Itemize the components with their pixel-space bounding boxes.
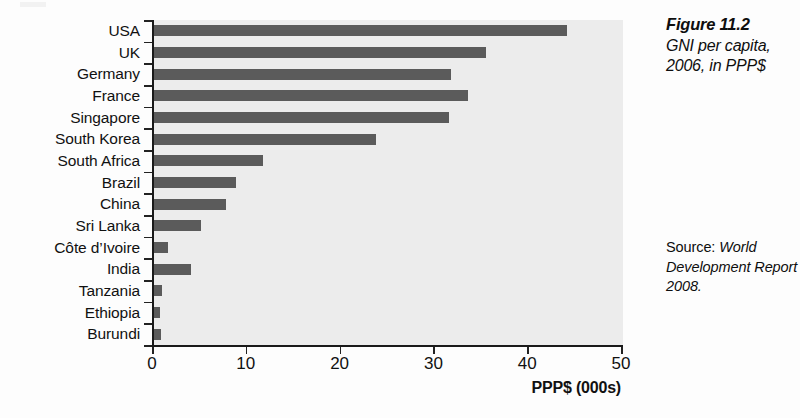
x-axis-tick xyxy=(152,347,154,354)
y-axis-label: France xyxy=(8,85,143,107)
bar-row xyxy=(154,237,623,259)
x-axis-tick xyxy=(433,347,435,354)
y-axis-label: Sri Lanka xyxy=(8,215,143,237)
y-axis-tick xyxy=(144,20,152,22)
y-axis-label: UK xyxy=(8,42,143,64)
bar xyxy=(154,285,162,296)
figure-number: Figure 11.2 xyxy=(666,14,796,35)
bar-row xyxy=(154,258,623,280)
plot-area xyxy=(152,20,623,347)
y-axis-tick-marks xyxy=(144,20,152,345)
source-label: Source: xyxy=(666,239,719,255)
bar xyxy=(154,112,449,123)
y-axis-tick xyxy=(144,128,152,130)
x-axis-tick-label: 0 xyxy=(147,355,156,372)
y-axis-label: Brazil xyxy=(8,172,143,194)
x-axis-tick xyxy=(621,347,623,354)
y-axis-tick xyxy=(144,107,152,109)
bar-row xyxy=(154,63,623,85)
y-axis-label: South Africa xyxy=(8,150,143,172)
y-axis-tick xyxy=(144,63,152,65)
x-axis-tick-label: 20 xyxy=(330,355,349,372)
y-axis-label: South Korea xyxy=(8,128,143,150)
bar-row xyxy=(154,323,623,345)
bar xyxy=(154,47,486,58)
figure-page: USAUKGermanyFranceSingaporeSouth KoreaSo… xyxy=(0,0,800,418)
bar-row xyxy=(154,193,623,215)
x-axis-tick xyxy=(340,347,342,354)
x-axis-tick-label: 40 xyxy=(518,355,537,372)
y-axis-tick xyxy=(144,150,152,152)
bar xyxy=(154,264,191,275)
bar xyxy=(154,134,376,145)
y-axis-label: Côte d’Ivoire xyxy=(8,237,143,259)
bar-row xyxy=(154,20,623,42)
bar-row xyxy=(154,172,623,194)
bar xyxy=(154,329,161,340)
y-axis-tick xyxy=(144,85,152,87)
bar xyxy=(154,177,236,188)
x-axis-tick-label: 10 xyxy=(236,355,255,372)
bar xyxy=(154,199,226,210)
y-axis-tick xyxy=(144,258,152,260)
figure-source: Source: World Development Report 2008. xyxy=(666,238,798,297)
figure-caption-block: Figure 11.2 GNI per capita, 2006, in PPP… xyxy=(666,14,796,77)
bar xyxy=(154,155,263,166)
y-axis-tick xyxy=(144,215,152,217)
bar xyxy=(154,69,451,80)
y-axis-label: Burundi xyxy=(8,323,143,345)
x-axis-title: PPP$ (000s) xyxy=(532,379,621,397)
bar-series xyxy=(154,20,623,345)
y-axis-label: USA xyxy=(8,20,143,42)
x-axis-tick-label: 30 xyxy=(424,355,443,372)
y-axis-label: Singapore xyxy=(8,107,143,129)
bar xyxy=(154,242,168,253)
x-axis-tick xyxy=(527,347,529,354)
y-axis-tick xyxy=(144,193,152,195)
y-axis-tick xyxy=(144,323,152,325)
y-axis-tick xyxy=(144,172,152,174)
y-axis-label: Tanzania xyxy=(8,280,143,302)
y-axis-label: Germany xyxy=(8,63,143,85)
y-axis-tick xyxy=(144,237,152,239)
bar-row xyxy=(154,85,623,107)
y-axis-tick xyxy=(144,302,152,304)
y-axis-label: China xyxy=(8,193,143,215)
bar-row xyxy=(154,302,623,324)
bar-chart: USAUKGermanyFranceSingaporeSouth KoreaSo… xyxy=(0,0,640,418)
bar-row xyxy=(154,150,623,172)
x-axis: PPP$ (000s) 01020304050 xyxy=(152,347,621,407)
y-axis-label: India xyxy=(8,258,143,280)
bar-row xyxy=(154,280,623,302)
bar xyxy=(154,25,567,36)
bar-row xyxy=(154,42,623,64)
bar xyxy=(154,90,468,101)
y-axis-tick xyxy=(144,345,152,347)
y-axis-category-labels: USAUKGermanyFranceSingaporeSouth KoreaSo… xyxy=(8,20,143,345)
y-axis-tick xyxy=(144,280,152,282)
y-axis-tick xyxy=(144,42,152,44)
bar-row xyxy=(154,107,623,129)
y-axis-label: Ethiopia xyxy=(8,302,143,324)
x-axis-tick xyxy=(246,347,248,354)
bar-row xyxy=(154,128,623,150)
bar xyxy=(154,220,201,231)
figure-title: GNI per capita, 2006, in PPP$ xyxy=(666,36,796,78)
bar xyxy=(154,307,160,318)
x-axis-tick-label: 50 xyxy=(612,355,631,372)
bar-row xyxy=(154,215,623,237)
